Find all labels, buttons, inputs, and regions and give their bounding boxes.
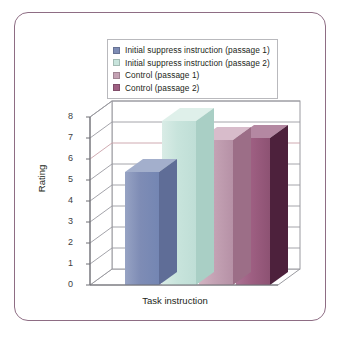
figure-frame: Initial suppress instruction (passage 1)… [14,12,326,321]
y-tick-label: 3 [59,216,73,226]
bar-initial-suppress-passage-1 [125,159,177,285]
y-tick-label: 6 [59,153,73,163]
x-axis-title: Task instruction [75,295,275,306]
y-tick-label: 7 [59,132,73,142]
plot-area: 0 1 2 3 4 5 6 7 8 Rating Task instructio… [15,13,327,322]
y-tick-label: 1 [59,258,73,268]
y-tick-label: 0 [59,279,73,289]
y-tick-label: 2 [59,237,73,247]
y-tick-marks [86,117,90,285]
y-tick-label: 4 [59,195,73,205]
y-axis-tick-labels: 0 1 2 3 4 5 6 7 8 [57,13,73,322]
y-tick-label: 5 [59,174,73,184]
y-tick-label: 8 [59,111,73,121]
y-axis-title: Rating [36,144,47,214]
